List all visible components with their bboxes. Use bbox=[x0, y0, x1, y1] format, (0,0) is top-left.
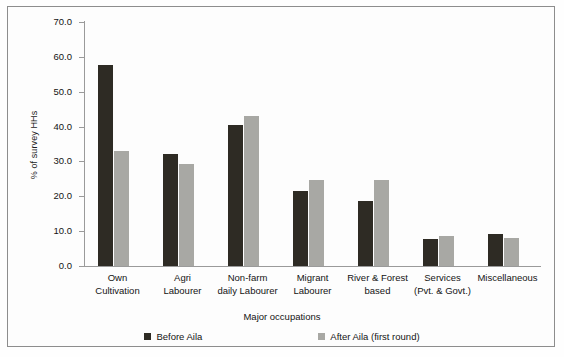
legend-label-after: After Aila (first round) bbox=[330, 331, 419, 342]
legend-item-before-aila: Before Aila bbox=[144, 331, 202, 342]
y-axis-tick-label: 20.0 bbox=[12, 190, 72, 201]
bar-group bbox=[410, 22, 475, 266]
chart-legend: Before Aila After Aila (first round) bbox=[0, 331, 564, 342]
bar-after-aila bbox=[309, 180, 324, 266]
y-axis-tick-label: 0.0 bbox=[12, 260, 72, 271]
bar-before-aila bbox=[488, 234, 503, 266]
bar-group bbox=[85, 22, 150, 266]
y-axis-tick bbox=[79, 161, 84, 162]
x-axis-line bbox=[84, 266, 541, 267]
y-axis-tick-label: 40.0 bbox=[12, 121, 72, 132]
y-axis-tick bbox=[79, 92, 84, 93]
bar-group bbox=[475, 22, 540, 266]
y-axis-tick-label: 50.0 bbox=[12, 86, 72, 97]
x-axis-tick-label-line: (Pvt. & Govt.) bbox=[400, 285, 485, 298]
x-axis-title: Major occupations bbox=[0, 311, 564, 322]
y-axis-tick-label: 30.0 bbox=[12, 155, 72, 166]
y-axis-tick-label: 60.0 bbox=[12, 51, 72, 62]
legend-item-after-aila: After Aila (first round) bbox=[318, 331, 419, 342]
legend-swatch-icon-after bbox=[318, 333, 325, 340]
bar-after-aila bbox=[114, 151, 129, 266]
bar-before-aila bbox=[423, 239, 438, 266]
bar-after-aila bbox=[374, 180, 389, 266]
bar-group bbox=[150, 22, 215, 266]
bar-before-aila bbox=[98, 65, 113, 266]
y-axis-tick bbox=[79, 231, 84, 232]
bar-after-aila bbox=[244, 116, 259, 266]
y-axis-tick-label: 70.0 bbox=[12, 16, 72, 27]
y-axis-tick-label: 10.0 bbox=[12, 225, 72, 236]
bar-before-aila bbox=[163, 154, 178, 266]
bar-chart-figure: % of survey HHs 70.060.050.040.030.020.0… bbox=[0, 0, 564, 357]
y-axis-tick bbox=[79, 266, 84, 267]
y-axis-tick bbox=[79, 196, 84, 197]
y-axis-tick bbox=[79, 22, 84, 23]
bar-after-aila bbox=[439, 236, 454, 266]
legend-label-before: Before Aila bbox=[156, 331, 202, 342]
y-axis-title: % of survey HHs bbox=[29, 85, 39, 205]
bar-before-aila bbox=[358, 201, 373, 266]
bar-group bbox=[345, 22, 410, 266]
bar-group bbox=[215, 22, 280, 266]
y-axis-tick bbox=[79, 57, 84, 58]
bar-before-aila bbox=[228, 125, 243, 266]
x-axis-tick-label: Miscellaneous bbox=[465, 272, 550, 285]
bar-before-aila bbox=[293, 191, 308, 266]
plot-area bbox=[85, 22, 540, 266]
bar-after-aila bbox=[504, 238, 519, 266]
bar-group bbox=[280, 22, 345, 266]
bar-after-aila bbox=[179, 164, 194, 266]
y-axis-tick bbox=[79, 127, 84, 128]
legend-swatch-icon-before bbox=[144, 333, 151, 340]
x-axis-tick-label-line: Miscellaneous bbox=[465, 272, 550, 285]
